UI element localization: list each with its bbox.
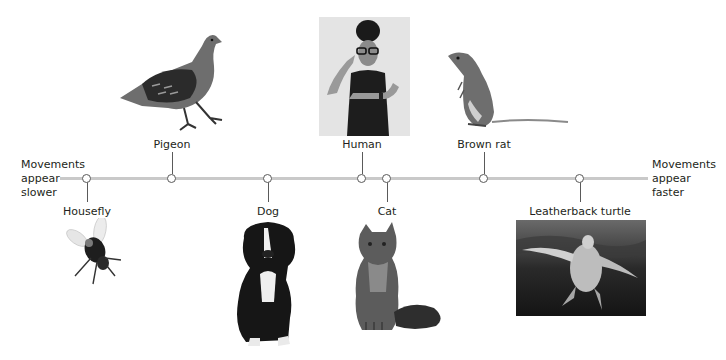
leatherback-turtle-stem [580, 182, 581, 202]
dog-stem [268, 182, 269, 202]
housefly-label: Housefly [63, 205, 111, 218]
cat-photo [352, 222, 444, 334]
human-label: Human [342, 138, 382, 151]
right-end-label-line-1: Movements [652, 158, 716, 172]
right-end-label-line-2: appear [652, 172, 716, 186]
pigeon-photo [112, 26, 232, 136]
human-stem [362, 152, 363, 174]
cat-label: Cat [378, 205, 397, 218]
human-node [357, 174, 366, 183]
housefly-photo [55, 218, 125, 290]
pigeon-node [167, 174, 176, 183]
leatherback-turtle-photo [516, 220, 646, 316]
pigeon-label: Pigeon [154, 138, 191, 151]
dog-photo [228, 218, 308, 350]
right-end-label: Movements appear faster [652, 158, 716, 200]
housefly-node [82, 174, 91, 183]
cat-node [382, 174, 391, 183]
human-photo [319, 17, 410, 136]
housefly-stem [87, 182, 88, 202]
dog-node [263, 174, 272, 183]
left-end-label-line-1: Movements [21, 158, 85, 172]
dog-label: Dog [257, 205, 279, 218]
left-end-label-line-3: slower [21, 186, 85, 200]
left-end-label-line-2: appear [21, 172, 85, 186]
brown-rat-stem [484, 152, 485, 174]
right-end-label-line-3: faster [652, 186, 716, 200]
brown-rat-photo [446, 50, 570, 132]
timeline-axis-line [60, 177, 648, 180]
leatherback-turtle-node [575, 174, 584, 183]
leatherback-turtle-label: Leatherback turtle [529, 205, 631, 218]
left-end-label: Movements appear slower [21, 158, 85, 200]
cat-stem [387, 182, 388, 202]
brown-rat-label: Brown rat [457, 138, 511, 151]
brown-rat-node [479, 174, 488, 183]
pigeon-stem [172, 152, 173, 174]
